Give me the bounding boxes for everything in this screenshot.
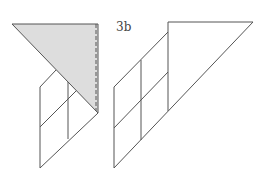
diagram-canvas: 3b bbox=[0, 0, 266, 193]
left-grid-bottom-edge bbox=[40, 113, 98, 168]
shaded-triangle bbox=[12, 24, 98, 113]
figure-label: 3b bbox=[116, 20, 132, 34]
right-figure bbox=[114, 22, 253, 168]
left-grid-top-edge bbox=[40, 70, 56, 87]
right-long-diagonal bbox=[114, 22, 253, 168]
left-grid-middle-diagonal bbox=[40, 90, 77, 127]
